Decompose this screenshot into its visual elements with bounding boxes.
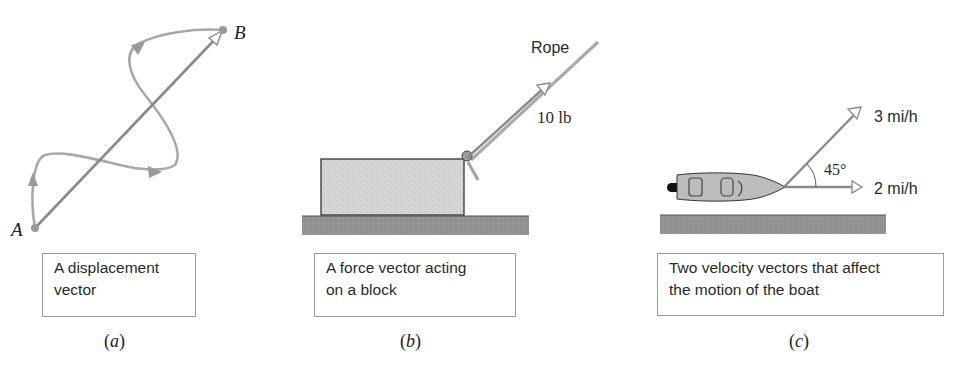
panel-b-drawing: Rope 10 lb [302, 39, 598, 235]
caption-b-line-1: A force vector acting [326, 257, 505, 279]
panel-letter-c: c [795, 331, 803, 351]
force-vector [467, 87, 545, 158]
force-label: 10 lb [537, 108, 571, 127]
block [321, 159, 464, 215]
caption-a-line-1: A displacement [54, 257, 185, 279]
boat [667, 173, 785, 201]
point-a-dot [31, 224, 39, 232]
caption-a-line-2: vector [54, 279, 185, 301]
velocity-label-3mph: 3 mi/h [874, 108, 918, 125]
panel-c-drawing: 45° 3 mi/h 2 mi/h [660, 107, 918, 234]
point-b-label: B [234, 22, 246, 43]
panel-label-b: (b) [400, 331, 421, 352]
path-arrow-2 [148, 166, 162, 178]
path-arrow-1 [28, 172, 38, 186]
velocity-label-2mph: 2 mi/h [874, 180, 918, 197]
angle-arc [807, 164, 816, 187]
ground-c [660, 215, 886, 234]
velocity-arrowhead-2mph [852, 181, 862, 193]
angle-label: 45° [824, 161, 846, 178]
rope-tail [468, 162, 478, 180]
panel-letter-b: b [406, 331, 415, 351]
panel-label-a: (a) [104, 331, 125, 352]
panel-a-drawing: A B [9, 22, 246, 240]
point-a-label: A [9, 219, 23, 240]
caption-b: A force vector acting on a block [314, 253, 516, 317]
caption-c: Two velocity vectors that affect the mot… [657, 253, 944, 316]
velocity-arrowhead-3mph [848, 107, 861, 119]
panel-letter-a: a [110, 331, 119, 351]
panel-label-c: (c) [789, 331, 809, 352]
caption-c-line-1: Two velocity vectors that affect [669, 257, 933, 279]
displacement-vector [35, 34, 220, 228]
curved-path [32, 30, 222, 228]
caption-a: A displacement vector [42, 253, 196, 317]
caption-b-line-2: on a block [326, 279, 505, 301]
rope-label: Rope [531, 39, 569, 56]
rope [471, 42, 598, 160]
point-b-dot [219, 26, 227, 34]
boat-hull [677, 173, 785, 201]
caption-c-line-2: the motion of the boat [669, 279, 933, 301]
ground-b [302, 216, 529, 235]
